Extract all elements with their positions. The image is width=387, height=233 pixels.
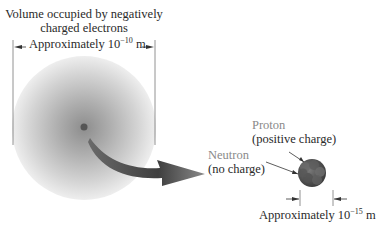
neutron-label: Neutron	[208, 148, 249, 162]
nucleus	[298, 159, 326, 187]
proton-charge-label: (positive charge)	[252, 132, 336, 146]
nucleus-dot	[81, 124, 88, 131]
atom-label-line1: Volume occupied by negatively	[0, 7, 168, 21]
nucleus-dimension-label: Approximately 10−15 m	[259, 208, 376, 222]
neutron-charge-label: (no charge)	[208, 162, 265, 176]
atom-label-line2: charged electrons	[0, 21, 168, 35]
atom-dimension-label: Approximately 10−10 m	[29, 37, 146, 51]
arrow-left-icon	[334, 197, 341, 201]
proton-label: Proton	[252, 118, 285, 132]
arrow-right-icon	[292, 197, 299, 201]
